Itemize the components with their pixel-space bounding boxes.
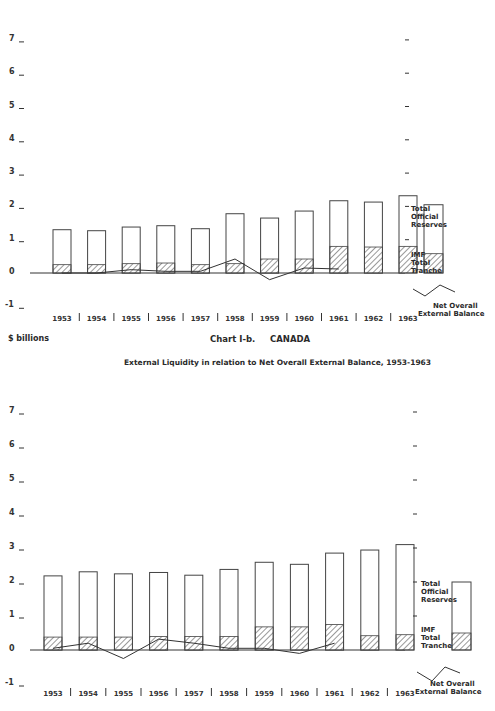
bar-1959 bbox=[255, 562, 273, 650]
x-tick-label: 1956 bbox=[149, 690, 168, 698]
y-tick-label: 3 bbox=[9, 542, 15, 551]
legend-sample-line bbox=[417, 667, 460, 681]
lower-chart-plot bbox=[0, 0, 495, 711]
bar-1962 bbox=[361, 550, 379, 650]
y-tick-label: 6 bbox=[9, 440, 15, 449]
x-tick-label: 1963 bbox=[395, 690, 414, 698]
x-tick-label: 1955 bbox=[114, 690, 133, 698]
y-tick-label: 7 bbox=[9, 406, 15, 415]
lower-legend-imf: IMFTotalTranche bbox=[421, 626, 452, 650]
lower-legend-balance: Net OverallExternal Balance bbox=[415, 680, 481, 696]
bar-1958 bbox=[220, 569, 238, 650]
bar-1957 bbox=[185, 575, 203, 650]
y-tick-label: 5 bbox=[9, 474, 15, 483]
x-tick-label: 1954 bbox=[78, 690, 97, 698]
bar-1953 bbox=[44, 576, 62, 650]
bar-1956 bbox=[150, 572, 168, 650]
y-tick-label: 4 bbox=[9, 508, 15, 517]
bar-1961 bbox=[326, 553, 344, 650]
x-tick-label: 1957 bbox=[184, 690, 203, 698]
y-tick-label: 2 bbox=[9, 576, 15, 585]
lower-chart: 76543210-1 19531954195519561957195819591… bbox=[0, 0, 495, 711]
bar-1955 bbox=[114, 574, 132, 650]
x-tick-label: 1959 bbox=[254, 690, 273, 698]
y-tick-label: -1 bbox=[5, 678, 14, 687]
x-tick-label: 1960 bbox=[290, 690, 309, 698]
x-tick-label: 1958 bbox=[219, 690, 238, 698]
x-tick-label: 1962 bbox=[360, 690, 379, 698]
bar-1960 bbox=[290, 564, 308, 650]
x-tick-label: 1953 bbox=[43, 690, 62, 698]
x-tick-label: 1961 bbox=[325, 690, 344, 698]
bar-1954 bbox=[79, 572, 97, 650]
lower-legend-reserves: TotalOfficialReserves bbox=[421, 580, 457, 604]
bar-1963 bbox=[396, 545, 414, 650]
y-tick-label: 0 bbox=[9, 644, 15, 653]
y-tick-label: 1 bbox=[9, 610, 15, 619]
